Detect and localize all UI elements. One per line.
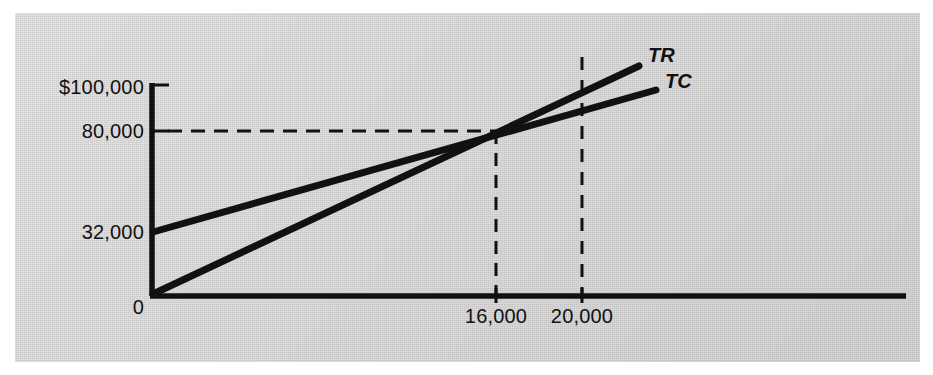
series-label-total-revenue: TR — [648, 44, 675, 67]
figure-container: $100,000 80,000 32,000 0 16,000 20,000 T… — [0, 0, 933, 375]
total-revenue-line — [153, 66, 639, 294]
y-axis-label-32000: 32,000 — [48, 221, 144, 244]
y-axis-label-100000: $100,000 — [48, 76, 144, 99]
series-label-total-cost: TC — [665, 70, 692, 93]
x-axis-label-20000: 20,000 — [530, 305, 634, 328]
y-axis-label-80000: 80,000 — [48, 120, 144, 143]
y-axis-label-0: 0 — [90, 296, 144, 319]
